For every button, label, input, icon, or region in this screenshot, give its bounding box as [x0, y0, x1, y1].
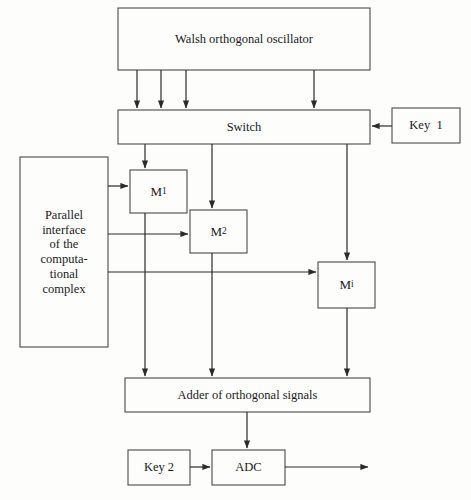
parallel-interface-box: [20, 157, 108, 347]
m2-box: [190, 210, 247, 253]
diagram-page: Walsh orthogonal oscillator Switch Key 1…: [0, 0, 471, 500]
key1-box: [392, 108, 460, 143]
adc-box: [212, 450, 285, 485]
m1-box: [130, 170, 187, 213]
key2-box: [128, 450, 190, 485]
switch-box: [118, 110, 370, 144]
mi-box: [318, 262, 375, 308]
block-diagram-canvas: [0, 0, 471, 500]
adder-box: [125, 378, 370, 412]
oscillator-box: [118, 8, 370, 70]
